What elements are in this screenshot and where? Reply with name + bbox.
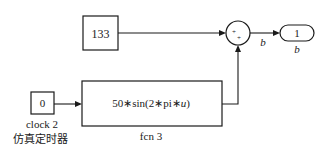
outport-block[interactable]: 1	[280, 25, 314, 41]
arrow-head	[235, 45, 241, 52]
clock-name: clock 2	[26, 118, 58, 130]
constant-value: 133	[92, 27, 110, 41]
fcn-expression-prefix: 50∗sin(2∗pi∗	[112, 97, 181, 110]
outport-label: b	[294, 43, 300, 55]
fcn-name: fcn 3	[140, 130, 163, 142]
arrow-head	[219, 30, 226, 36]
clock-value: 0	[40, 97, 46, 109]
constant-block[interactable]: 133	[83, 16, 118, 50]
sum-sign-1: +	[232, 28, 236, 36]
fcn-block[interactable]: 50∗sin(2∗pi∗u)	[82, 81, 222, 126]
signal-label-b: b	[260, 36, 266, 48]
fcn-expression: 50∗sin(2∗pi∗u)	[112, 97, 190, 110]
fcn-expression-suffix: )	[186, 97, 190, 110]
sum-block[interactable]: + +	[226, 21, 250, 45]
simulink-diagram: 133 + + b 1 b 0 clock 2 仿真定时器 50∗sin(2∗p…	[0, 0, 326, 155]
wire-fcn-to-sum	[222, 49, 238, 104]
clock-caption: 仿真定时器	[13, 132, 68, 145]
sum-sign-2: +	[237, 34, 241, 42]
arrow-head	[75, 101, 82, 107]
clock-block[interactable]: 0	[31, 92, 54, 114]
arrow-head	[273, 30, 280, 36]
outport-number: 1	[294, 27, 300, 39]
